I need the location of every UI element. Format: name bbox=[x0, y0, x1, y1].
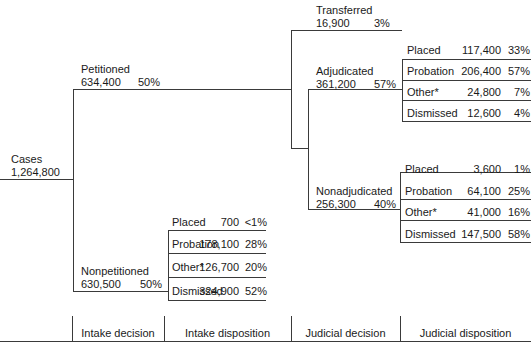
intake-row-divider bbox=[168, 277, 266, 278]
nonpetitioned-node: Nonpetitioned 630,50050% bbox=[81, 265, 169, 291]
nonadjudicated-disposition-row: Probation 64,100 25% bbox=[405, 185, 530, 198]
judicial-split-line bbox=[291, 30, 292, 149]
nonadjudicated-node: Nonadjudicated 256,30040% bbox=[316, 185, 400, 211]
stage-axis-line bbox=[0, 341, 531, 342]
intake-row-divider bbox=[168, 230, 266, 231]
nonadjudicated-value: 256,300 bbox=[316, 198, 356, 210]
nonadj-row-divider bbox=[400, 199, 531, 200]
nonadjudicated-label: Nonadjudicated bbox=[316, 185, 400, 198]
adj-row-divider bbox=[402, 59, 531, 60]
transferred-label: Transferred bbox=[316, 4, 396, 17]
intake-disposition-row: Probation 178,100 28% bbox=[172, 238, 267, 251]
nonadjudicated-disposition-row: Other* 41,000 16% bbox=[405, 206, 530, 219]
petitioned-node: Petitioned 634,40050% bbox=[81, 63, 169, 89]
petitioned-value: 634,400 bbox=[81, 76, 121, 88]
adjudicated-disposition-bracket bbox=[402, 59, 403, 122]
intake-disposition-row: Placed 700 <1% bbox=[172, 216, 267, 229]
adjudicated-value: 361,200 bbox=[316, 78, 356, 90]
stage-label-intake-decision: Intake decision bbox=[72, 327, 164, 340]
transferred-value: 16,900 bbox=[316, 17, 350, 29]
adjudicated-node: Adjudicated 361,20057% bbox=[316, 65, 400, 91]
stage-label-judicial-disposition: Judicial disposition bbox=[400, 327, 531, 340]
intake-disposition-row: Dismissed 324,900 52% bbox=[172, 285, 267, 298]
transferred-node: Transferred 16,9003% bbox=[316, 4, 396, 30]
adjudicated-pct: 57% bbox=[374, 78, 396, 91]
nonadj-row-divider bbox=[400, 220, 531, 221]
adjudicated-disposition-row: Placed 117,400 33% bbox=[407, 44, 530, 57]
petitioned-line bbox=[73, 89, 292, 90]
adjudicated-label: Adjudicated bbox=[316, 65, 400, 78]
adjudication-split-line bbox=[308, 89, 309, 210]
intake-row-divider bbox=[168, 253, 266, 254]
adj-row-divider bbox=[402, 80, 531, 81]
adj-row-divider bbox=[402, 100, 531, 101]
nonpetitioned-pct: 50% bbox=[140, 278, 162, 291]
adjudicated-disposition-row: Dismissed 12,600 4% bbox=[407, 107, 530, 120]
intake-disposition-row: Other* 126,700 20% bbox=[172, 261, 267, 274]
intake-split-line bbox=[73, 89, 74, 292]
nonadjudicated-disposition-bracket bbox=[400, 172, 401, 243]
stage-label-intake-disposition: Intake disposition bbox=[164, 327, 291, 340]
root-value: 1,264,800 bbox=[11, 166, 60, 179]
nonpetitioned-label: Nonpetitioned bbox=[81, 265, 169, 278]
nonadjudicated-disposition-row: Dismissed 147,500 58% bbox=[405, 228, 530, 241]
petitioned-pct: 50% bbox=[138, 76, 160, 89]
root-label: Cases bbox=[11, 153, 60, 166]
stage-label-judicial-decision: Judicial decision bbox=[291, 327, 400, 340]
nonadj-row-divider bbox=[400, 242, 531, 243]
adjudicated-disposition-row: Probation 206,400 57% bbox=[407, 65, 530, 78]
transferred-pct: 3% bbox=[374, 17, 390, 30]
adj-row-divider bbox=[402, 121, 531, 122]
root-line bbox=[0, 179, 73, 180]
judicial-split-bottom-line bbox=[291, 148, 308, 149]
intake-row-divider bbox=[168, 300, 266, 301]
transferred-line bbox=[291, 30, 402, 31]
petitioned-label: Petitioned bbox=[81, 63, 169, 76]
nonadjudicated-pct: 40% bbox=[374, 198, 396, 211]
nonadjudicated-disposition-row: Placed 3,600 1% bbox=[405, 163, 530, 176]
adjudicated-disposition-row: Other* 24,800 7% bbox=[407, 86, 530, 99]
nonpetitioned-line bbox=[73, 291, 168, 292]
nonpetitioned-value: 630,500 bbox=[81, 278, 121, 290]
root-node: Cases 1,264,800 bbox=[11, 153, 60, 179]
